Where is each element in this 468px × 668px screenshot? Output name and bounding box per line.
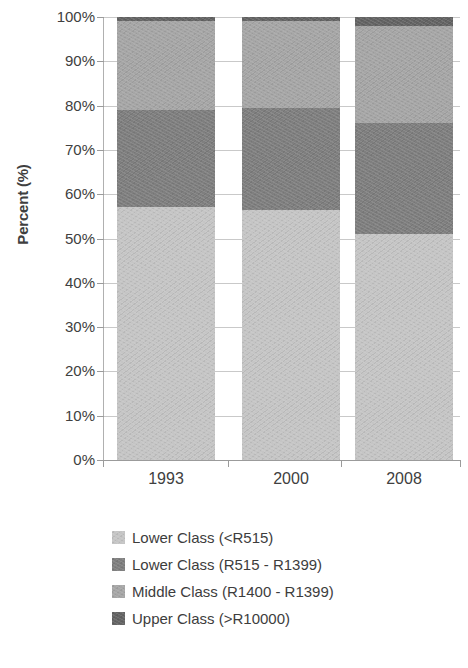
y-axis-tick-label: 70% [33, 141, 95, 158]
bar-segment[interactable] [242, 21, 340, 107]
bar-segment[interactable] [355, 123, 453, 234]
y-axis-tick [97, 17, 104, 18]
y-axis-tick [97, 194, 104, 195]
y-axis-tick-label: 90% [33, 52, 95, 69]
texture-overlay [242, 210, 340, 460]
y-axis-tick-label: 50% [33, 230, 95, 247]
bar-2008[interactable] [355, 17, 453, 460]
bar-segment[interactable] [117, 21, 215, 110]
legend-swatch-icon [112, 612, 125, 625]
bar-1993[interactable] [117, 17, 215, 460]
texture-overlay [112, 558, 125, 571]
y-axis-tick [97, 150, 104, 151]
y-axis-tick-label: 40% [33, 274, 95, 291]
bar-2000[interactable] [242, 17, 340, 460]
texture-overlay [242, 17, 340, 21]
x-axis-tick [460, 460, 461, 467]
bar-segment[interactable] [117, 110, 215, 207]
texture-overlay [242, 21, 340, 107]
chart-legend: Lower Class (<R515)Lower Class (R515 - R… [112, 524, 452, 632]
legend-item[interactable]: Upper Class (>R10000) [112, 605, 452, 632]
legend-label: Lower Class (R515 - R1399) [132, 556, 322, 573]
plot-area [103, 17, 460, 460]
texture-overlay [355, 123, 453, 234]
x-axis-tick [341, 460, 342, 467]
y-axis-tick-label: 10% [33, 407, 95, 424]
texture-overlay [117, 21, 215, 110]
legend-swatch-icon [112, 558, 125, 571]
bar-segment[interactable] [355, 26, 453, 123]
y-axis-tick-label: 20% [33, 362, 95, 379]
legend-item[interactable]: Middle Class (R1400 - R1399) [112, 578, 452, 605]
legend-item[interactable]: Lower Class (<R515) [112, 524, 452, 551]
y-axis-tick-label: 60% [33, 185, 95, 202]
x-axis-label-2000: 2000 [231, 470, 351, 488]
bar-segment[interactable] [242, 108, 340, 210]
y-axis-tick [97, 371, 104, 372]
x-axis-tick [103, 460, 104, 467]
y-axis-tick [97, 106, 104, 107]
texture-overlay [117, 207, 215, 460]
texture-overlay [112, 531, 125, 544]
legend-swatch-icon [112, 531, 125, 544]
bar-segment[interactable] [355, 234, 453, 460]
y-axis-tick [97, 239, 104, 240]
x-axis-label-1993: 1993 [106, 470, 226, 488]
legend-swatch-icon [112, 585, 125, 598]
legend-label: Middle Class (R1400 - R1399) [132, 583, 334, 600]
x-axis-label-2008: 2008 [344, 470, 464, 488]
legend-label: Upper Class (>R10000) [132, 610, 290, 627]
texture-overlay [242, 108, 340, 210]
y-axis-tick-label: 100% [33, 8, 95, 25]
y-axis-tick [97, 327, 104, 328]
texture-overlay [355, 26, 453, 123]
bar-segment[interactable] [117, 207, 215, 460]
y-axis-tick-label: 0% [33, 451, 95, 468]
bar-segment[interactable] [242, 210, 340, 460]
texture-overlay [117, 110, 215, 207]
y-axis-tick-label: 30% [33, 318, 95, 335]
y-axis-tick [97, 283, 104, 284]
texture-overlay [355, 234, 453, 460]
texture-overlay [355, 17, 453, 26]
bar-segment[interactable] [355, 17, 453, 26]
texture-overlay [117, 17, 215, 21]
texture-overlay [112, 612, 125, 625]
legend-item[interactable]: Lower Class (R515 - R1399) [112, 551, 452, 578]
y-axis-tick-label: 80% [33, 97, 95, 114]
y-axis-tick [97, 61, 104, 62]
x-axis-line [103, 460, 460, 461]
bar-segment[interactable] [242, 17, 340, 21]
texture-overlay [112, 585, 125, 598]
y-axis-tick [97, 416, 104, 417]
chart-container: Percent (%) 0%10%20%30%40%50%60%70%80%90… [0, 0, 468, 668]
x-axis-tick [228, 460, 229, 467]
legend-label: Lower Class (<R515) [132, 529, 273, 546]
bar-segment[interactable] [117, 17, 215, 21]
